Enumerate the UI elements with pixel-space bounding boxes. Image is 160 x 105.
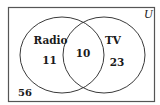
universe-label: U [144, 7, 154, 21]
tv-only-count: 23 [110, 56, 125, 68]
outside-count: 56 [18, 87, 32, 98]
radio-circle [20, 17, 104, 93]
radio-only-count: 11 [42, 54, 57, 66]
intersection-count: 10 [76, 47, 91, 59]
venn-diagram: U Radio 11 TV 23 10 56 [0, 0, 160, 105]
tv-set-label: TV [105, 34, 122, 46]
radio-set-label: Radio [33, 34, 67, 46]
